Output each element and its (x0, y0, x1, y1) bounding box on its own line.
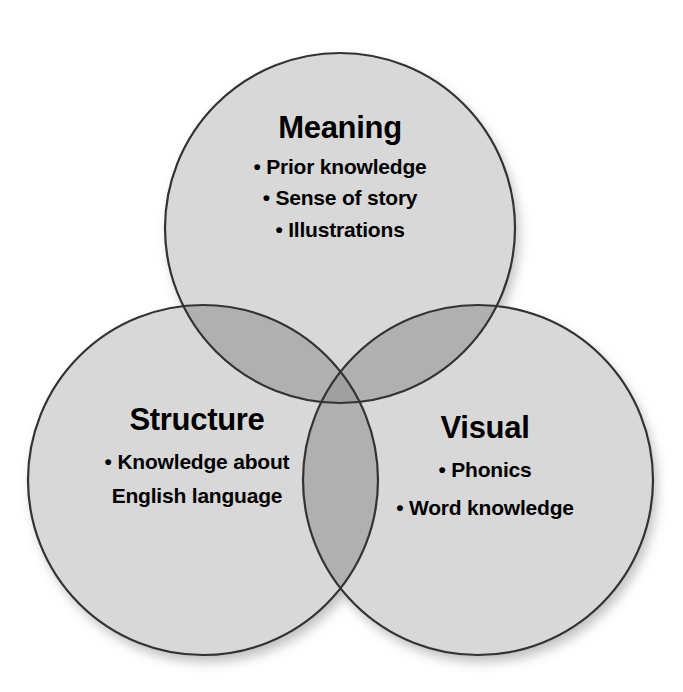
bullet-icon: • (253, 155, 260, 178)
list-item: • Phonics (375, 451, 595, 490)
list-item: • Prior knowledge (195, 151, 485, 183)
list-item: • Illustrations (195, 214, 485, 246)
bullet-icon: • (396, 496, 403, 519)
list-item-label: Prior knowledge (266, 155, 426, 178)
set-items-visual: • Phonics • Word knowledge (375, 451, 595, 529)
set-label-meaning: Meaning • Prior knowledge • Sense of sto… (195, 112, 485, 246)
list-item-label: Knowledge about English language (112, 450, 290, 507)
bullet-icon: • (275, 218, 282, 241)
bullet-icon: • (105, 450, 112, 473)
set-label-visual: Visual • Phonics • Word knowledge (375, 412, 595, 528)
list-item-label: Illustrations (288, 218, 404, 241)
venn-diagram: Meaning • Prior knowledge • Sense of sto… (0, 0, 683, 692)
set-items-structure: • Knowledge about English language (72, 445, 322, 513)
set-title-meaning: Meaning (195, 112, 485, 145)
set-label-structure: Structure • Knowledge about English lang… (72, 404, 322, 513)
set-items-meaning: • Prior knowledge • Sense of story • Ill… (195, 151, 485, 247)
bullet-icon: • (438, 458, 445, 481)
list-item: • Word knowledge (375, 489, 595, 528)
list-item-label: Phonics (451, 458, 531, 481)
list-item: • Knowledge about English language (72, 445, 322, 513)
venn-circles-graphic (0, 0, 683, 692)
list-item-label: Sense of story (275, 186, 417, 209)
list-item-label: Word knowledge (409, 496, 574, 519)
set-title-structure: Structure (72, 404, 322, 437)
set-title-visual: Visual (375, 412, 595, 445)
list-item: • Sense of story (195, 182, 485, 214)
bullet-icon: • (263, 186, 270, 209)
